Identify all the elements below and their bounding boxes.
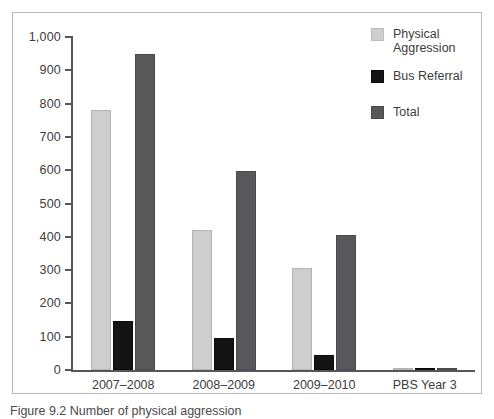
bar[interactable] <box>214 338 234 370</box>
bar[interactable] <box>437 368 457 370</box>
y-axis-tick <box>65 169 73 171</box>
legend-label: Physical Aggression <box>393 27 456 55</box>
x-axis-label: PBS Year 3 <box>375 379 476 392</box>
y-axis-tick-label: 200 <box>15 297 61 310</box>
y-axis-tick-label: 400 <box>15 231 61 244</box>
legend-label: Bus Referral <box>393 69 462 83</box>
y-axis-tick-label: 800 <box>15 98 61 111</box>
chart-frame: 1,0009008007006005004003002001000 2007–2… <box>12 12 482 394</box>
bar[interactable] <box>91 110 111 370</box>
bar[interactable] <box>192 230 212 370</box>
bar-group <box>73 37 174 370</box>
y-axis-tick-label: 900 <box>15 64 61 77</box>
y-axis-tick <box>65 103 73 105</box>
y-axis-tick-label: 500 <box>15 198 61 211</box>
legend-item[interactable]: Total <box>371 105 479 119</box>
bar[interactable] <box>336 235 356 370</box>
y-axis-tick-label: 100 <box>15 331 61 344</box>
bar[interactable] <box>236 171 256 370</box>
y-axis-tick-label: 0 <box>15 364 61 377</box>
plot-area: 1,0009008007006005004003002001000 2007–2… <box>13 13 483 395</box>
chart-legend: Physical AggressionBus ReferralTotal <box>371 27 479 133</box>
x-axis-label: 2007–2008 <box>73 379 174 392</box>
y-axis-tick-label: 600 <box>15 164 61 177</box>
y-axis-tick <box>65 69 73 71</box>
y-axis-tick <box>65 36 73 38</box>
legend-item[interactable]: Physical Aggression <box>371 27 479 55</box>
y-axis-tick-label: 300 <box>15 264 61 277</box>
y-axis-tick <box>65 236 73 238</box>
bar[interactable] <box>393 368 413 370</box>
legend-item[interactable]: Bus Referral <box>371 69 479 83</box>
figure-caption: Figure 9.2 Number of physical aggression <box>10 404 484 419</box>
bar[interactable] <box>113 321 133 370</box>
bar[interactable] <box>314 355 334 370</box>
y-axis-tick <box>65 302 73 304</box>
y-axis-tick <box>65 269 73 271</box>
bar-group <box>274 37 375 370</box>
y-axis-tick-label: 1,000 <box>15 31 61 44</box>
y-axis-tick <box>65 203 73 205</box>
y-axis-tick <box>65 136 73 138</box>
y-axis-tick <box>65 336 73 338</box>
legend-label: Total <box>393 105 419 119</box>
bar[interactable] <box>135 54 155 370</box>
legend-swatch-icon <box>371 106 384 119</box>
legend-swatch-icon <box>371 28 384 41</box>
x-axis-label: 2009–2010 <box>274 379 375 392</box>
y-axis-tick <box>65 369 73 371</box>
bar-group <box>174 37 275 370</box>
x-axis-line <box>71 370 475 372</box>
y-axis-tick-label: 700 <box>15 131 61 144</box>
legend-swatch-icon <box>371 70 384 83</box>
x-axis-label: 2008–2009 <box>174 379 275 392</box>
bar[interactable] <box>292 268 312 370</box>
bar[interactable] <box>415 368 435 370</box>
